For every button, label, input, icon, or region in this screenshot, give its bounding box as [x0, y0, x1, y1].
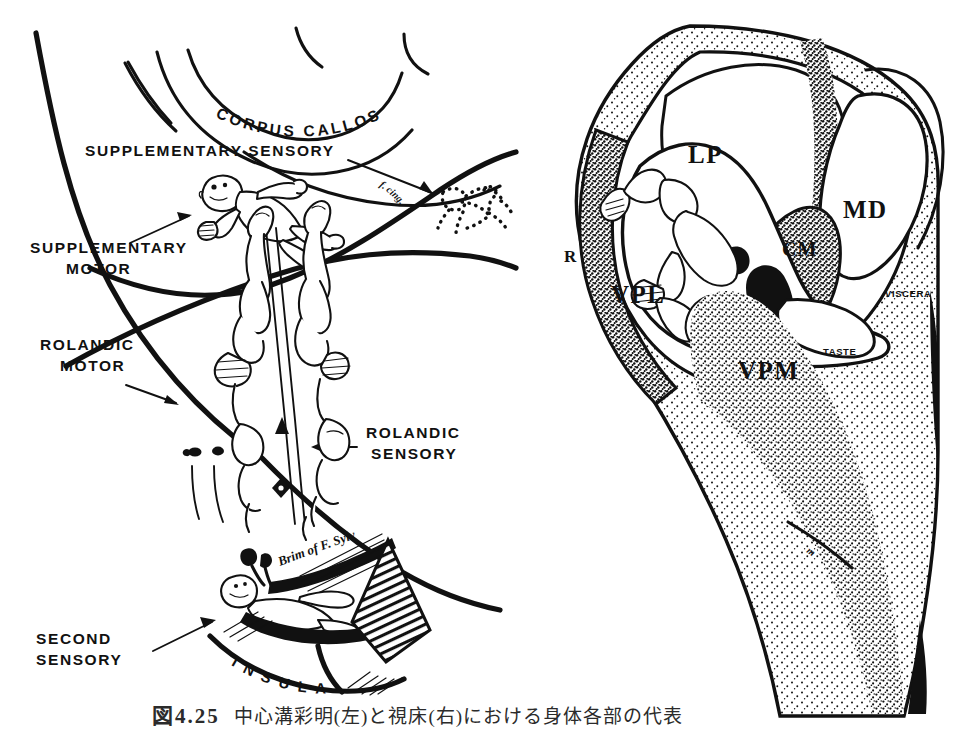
label-viscera: VISCERA	[885, 288, 931, 299]
eye-marker-right	[212, 447, 224, 456]
anatomical-diagram-svg: CORPUS CALLOSUM SUPPLEMENTARY SENSORY SU…	[0, 0, 968, 731]
arrowhead-rolandic-motor	[164, 395, 179, 405]
label-R-reticular: R	[564, 247, 577, 266]
figure-root: CORPUS CALLOSUM SUPPLEMENTARY SENSORY SU…	[0, 0, 968, 731]
label-VPM: VPM	[738, 357, 799, 384]
label-supplementary-motor-line1: SUPPLEMENTARY	[30, 239, 188, 256]
figure-caption: 図4.25中心溝彩明(左)と視床(右)における身体各部の代表	[0, 702, 968, 731]
label-taste: TASTE	[823, 346, 856, 357]
caption-text: 中心溝彩明(左)と視床(右)における身体各部の代表	[234, 706, 683, 727]
label-supplementary-sensory: SUPPLEMENTARY SENSORY	[85, 142, 335, 159]
label-supplementary-motor-line2: MOTOR	[66, 260, 131, 277]
label-MD: MD	[843, 196, 888, 223]
label-CM: CM	[782, 238, 817, 260]
arrowhead-supplementary-sensory	[419, 181, 434, 195]
label-VPL: VPL	[611, 281, 666, 308]
label-second-sensory-line1: SECOND	[36, 630, 112, 647]
label-rolandic-sensory-line2: SENSORY	[371, 445, 457, 462]
label-second-sensory-line2: SENSORY	[36, 651, 122, 668]
label-fasciculus-cingulum: f. cing.	[378, 179, 407, 207]
leader-second-sensory	[153, 622, 212, 651]
corpus-callosum-genu-hook	[296, 28, 322, 67]
right-panel-thalamus: m LP MD CM VPL VPM R TASTE VISCERA	[564, 26, 943, 716]
label-rolandic-motor-line2: MOTOR	[60, 357, 125, 374]
corpus-callosum-splenium-hook	[404, 34, 428, 74]
supplementary-sensory-homunculus	[438, 187, 512, 234]
label-rolandic-motor-line1: ROLANDIC	[40, 336, 135, 353]
rolandic-strip-homunculi	[183, 201, 350, 540]
left-panel-medial-cortex: CORPUS CALLOSUM SUPPLEMENTARY SENSORY SU…	[0, 0, 516, 697]
central-sulcus-arrowhead	[275, 417, 289, 434]
label-rolandic-sensory-line1: ROLANDIC	[366, 424, 461, 441]
caption-figure-number: 図4.25	[152, 704, 220, 728]
label-LP: LP	[688, 141, 723, 168]
